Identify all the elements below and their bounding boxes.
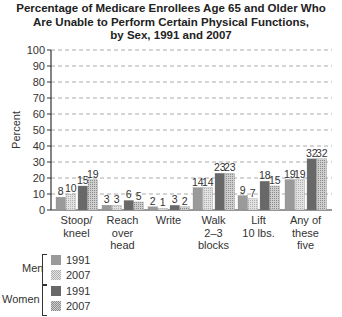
swatch-women-2007	[51, 301, 61, 311]
bar-men-1991	[148, 207, 158, 210]
y-tick-label: 80	[33, 76, 45, 88]
bar-men-2007	[158, 208, 168, 210]
y-tick-label: 70	[33, 92, 45, 104]
y-tick-label: 20	[33, 172, 45, 184]
x-axis-labels: Stoop/kneelReachoverheadWriteWalk2–3bloc…	[61, 214, 322, 251]
y-tick-label: 40	[33, 140, 45, 152]
x-category-label: head	[110, 239, 134, 251]
x-category-label: Any of	[290, 214, 322, 226]
bar-value-label: 2	[150, 195, 156, 207]
bar-women-2007	[88, 180, 98, 210]
bar-women-1991	[170, 205, 180, 210]
legend: Men 1991 2007 Women 1991 2007	[0, 252, 140, 317]
x-category-label: Walk	[201, 214, 226, 226]
bar-value-label: 15	[269, 174, 281, 186]
bar-men-1991	[285, 180, 295, 210]
bar-value-label: 3	[114, 193, 120, 205]
legend-men-label: Men	[22, 262, 43, 274]
bar-value-label: 9	[240, 184, 246, 196]
bar-value-label: 19	[294, 168, 306, 180]
x-category-label: these	[292, 227, 319, 239]
bar-men-2007	[248, 199, 258, 210]
x-category-label: blocks	[198, 239, 230, 251]
bar-women-1991	[78, 186, 88, 210]
bar-women-2007	[270, 186, 280, 210]
bar-men-1991	[238, 196, 248, 210]
legend-women-1991-label: 1991	[66, 285, 90, 297]
y-axis-label: Percent	[10, 111, 22, 149]
bar-value-label: 2	[182, 195, 188, 207]
bar-men-2007	[295, 180, 305, 210]
y-tick-label: 10	[33, 188, 45, 200]
bar-value-label: 10	[65, 182, 77, 194]
bar-value-label: 7	[250, 187, 256, 199]
legend-women-2007-label: 2007	[66, 300, 90, 312]
bar-value-label: 32	[316, 147, 328, 159]
bars: 8101519336521321414232397181519193232	[56, 147, 328, 210]
x-category-label: Reach	[107, 214, 139, 226]
bar-value-label: 8	[58, 185, 64, 197]
bar-women-2007	[134, 202, 144, 210]
legend-women-label: Women	[2, 293, 40, 305]
bar-men-1991	[56, 197, 66, 210]
swatch-men-2007	[51, 270, 61, 280]
bar-women-1991	[124, 200, 134, 210]
bar-value-label: 5	[136, 190, 142, 202]
y-tick-label: 90	[33, 60, 45, 72]
y-tick-label: 0	[39, 204, 45, 216]
x-category-label: Stoop/	[61, 214, 94, 226]
swatch-women-1991	[51, 286, 61, 296]
bar-men-2007	[203, 188, 213, 210]
y-tick-label: 60	[33, 108, 45, 120]
x-category-label: Lift	[251, 214, 266, 226]
y-tick-label: 50	[33, 124, 45, 136]
bar-value-label: 6	[126, 188, 132, 200]
bar-women-2007	[180, 207, 190, 210]
y-tick-label: 30	[33, 156, 45, 168]
bar-value-label: 23	[224, 161, 236, 173]
x-category-label: kneel	[63, 227, 89, 239]
bar-value-label: 14	[202, 176, 214, 188]
bar-women-1991	[307, 159, 317, 210]
bar-men-1991	[102, 205, 112, 210]
bar-value-label: 3	[172, 193, 178, 205]
legend-item-men-2007: 2007	[51, 269, 90, 281]
x-category-label: 10 lbs.	[242, 227, 274, 239]
x-category-label: 2–3	[204, 227, 222, 239]
bar-men-2007	[66, 194, 76, 210]
bar-women-1991	[215, 173, 225, 210]
bar-value-label: 19	[87, 168, 99, 180]
bar-men-1991	[193, 188, 203, 210]
x-category-label: five	[297, 239, 314, 251]
bar-value-label: 3	[104, 193, 110, 205]
legend-men-1991-label: 1991	[66, 254, 90, 266]
swatch-men-1991	[51, 255, 61, 265]
bar-value-label: 1	[160, 196, 166, 208]
legend-item-men-1991: 1991	[51, 254, 90, 266]
y-tick-label: 100	[27, 44, 45, 56]
bar-women-2007	[317, 159, 327, 210]
bar-men-2007	[112, 205, 122, 210]
bar-women-2007	[225, 173, 235, 210]
legend-men-bracket	[42, 254, 47, 285]
x-category-label: over	[112, 227, 134, 239]
legend-women-bracket	[42, 285, 47, 316]
legend-men-2007-label: 2007	[66, 269, 90, 281]
legend-item-women-1991: 1991	[51, 285, 90, 297]
legend-item-women-2007: 2007	[51, 300, 90, 312]
x-category-label: Write	[156, 214, 181, 226]
